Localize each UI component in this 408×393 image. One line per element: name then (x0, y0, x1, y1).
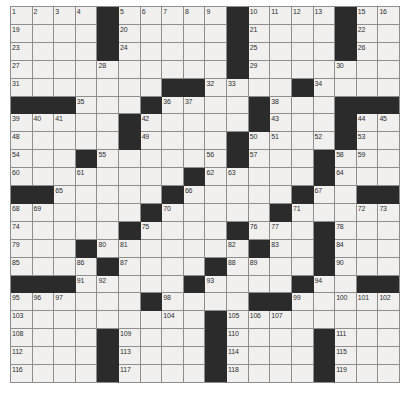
crossword-cell[interactable]: 54 (11, 150, 33, 168)
crossword-cell[interactable] (33, 150, 55, 168)
crossword-cell[interactable] (357, 79, 379, 97)
crossword-cell[interactable] (378, 43, 400, 61)
crossword-cell[interactable] (292, 43, 314, 61)
crossword-cell[interactable]: 67 (314, 186, 336, 204)
crossword-cell[interactable]: 29 (249, 61, 271, 79)
crossword-cell[interactable]: 23 (11, 43, 33, 61)
crossword-cell[interactable]: 70 (162, 204, 184, 222)
crossword-cell[interactable] (205, 132, 227, 150)
crossword-cell[interactable]: 83 (270, 240, 292, 258)
crossword-cell[interactable]: 77 (270, 222, 292, 240)
crossword-cell[interactable] (141, 276, 163, 294)
crossword-cell[interactable] (162, 258, 184, 276)
crossword-cell[interactable] (184, 293, 206, 311)
crossword-cell[interactable] (292, 365, 314, 383)
crossword-cell[interactable] (184, 222, 206, 240)
crossword-cell[interactable] (54, 43, 76, 61)
crossword-cell[interactable] (54, 25, 76, 43)
crossword-cell[interactable]: 68 (11, 204, 33, 222)
crossword-cell[interactable] (33, 222, 55, 240)
crossword-cell[interactable] (162, 61, 184, 79)
crossword-cell[interactable]: 85 (11, 258, 33, 276)
crossword-cell[interactable]: 80 (97, 240, 119, 258)
crossword-cell[interactable] (292, 329, 314, 347)
crossword-cell[interactable]: 8 (184, 7, 206, 25)
crossword-cell[interactable] (314, 204, 336, 222)
crossword-cell[interactable] (76, 222, 98, 240)
crossword-cell[interactable] (292, 311, 314, 329)
crossword-cell[interactable]: 1 (11, 7, 33, 25)
crossword-cell[interactable]: 75 (141, 222, 163, 240)
crossword-cell[interactable]: 101 (357, 293, 379, 311)
crossword-cell[interactable] (141, 347, 163, 365)
crossword-cell[interactable] (162, 222, 184, 240)
crossword-cell[interactable] (162, 240, 184, 258)
crossword-cell[interactable]: 64 (335, 168, 357, 186)
crossword-cell[interactable]: 33 (227, 79, 249, 97)
crossword-cell[interactable] (270, 25, 292, 43)
crossword-cell[interactable] (76, 329, 98, 347)
crossword-cell[interactable]: 28 (97, 61, 119, 79)
crossword-cell[interactable]: 102 (378, 293, 400, 311)
crossword-cell[interactable]: 107 (270, 311, 292, 329)
crossword-cell[interactable] (205, 204, 227, 222)
crossword-cell[interactable]: 44 (357, 114, 379, 132)
crossword-cell[interactable]: 93 (205, 276, 227, 294)
crossword-cell[interactable] (205, 97, 227, 115)
crossword-cell[interactable]: 81 (119, 240, 141, 258)
crossword-cell[interactable]: 58 (335, 150, 357, 168)
crossword-cell[interactable] (54, 222, 76, 240)
crossword-cell[interactable] (141, 43, 163, 61)
crossword-cell[interactable]: 3 (54, 7, 76, 25)
crossword-cell[interactable] (54, 204, 76, 222)
crossword-cell[interactable] (162, 114, 184, 132)
crossword-cell[interactable]: 21 (249, 25, 271, 43)
crossword-cell[interactable] (33, 79, 55, 97)
crossword-cell[interactable] (141, 258, 163, 276)
crossword-cell[interactable]: 24 (119, 43, 141, 61)
crossword-cell[interactable]: 39 (11, 114, 33, 132)
crossword-cell[interactable] (97, 114, 119, 132)
crossword-cell[interactable]: 88 (227, 258, 249, 276)
crossword-cell[interactable]: 119 (335, 365, 357, 383)
crossword-cell[interactable]: 100 (335, 293, 357, 311)
crossword-cell[interactable] (270, 258, 292, 276)
crossword-cell[interactable] (54, 329, 76, 347)
crossword-cell[interactable] (54, 150, 76, 168)
crossword-cell[interactable] (270, 168, 292, 186)
crossword-cell[interactable]: 22 (357, 25, 379, 43)
crossword-cell[interactable] (76, 25, 98, 43)
crossword-cell[interactable] (270, 347, 292, 365)
crossword-cell[interactable] (54, 347, 76, 365)
crossword-cell[interactable] (184, 43, 206, 61)
crossword-cell[interactable] (249, 276, 271, 294)
crossword-cell[interactable] (33, 329, 55, 347)
crossword-cell[interactable] (33, 365, 55, 383)
crossword-cell[interactable]: 99 (292, 293, 314, 311)
crossword-cell[interactable] (292, 168, 314, 186)
crossword-cell[interactable]: 108 (11, 329, 33, 347)
crossword-cell[interactable] (249, 329, 271, 347)
crossword-cell[interactable] (33, 258, 55, 276)
crossword-cell[interactable] (119, 293, 141, 311)
crossword-cell[interactable]: 117 (119, 365, 141, 383)
crossword-cell[interactable]: 53 (357, 132, 379, 150)
crossword-cell[interactable] (357, 61, 379, 79)
crossword-cell[interactable]: 104 (162, 311, 184, 329)
crossword-cell[interactable] (227, 204, 249, 222)
crossword-cell[interactable]: 11 (270, 7, 292, 25)
crossword-cell[interactable]: 98 (162, 293, 184, 311)
crossword-cell[interactable]: 65 (54, 186, 76, 204)
crossword-cell[interactable] (76, 79, 98, 97)
crossword-cell[interactable]: 105 (227, 311, 249, 329)
crossword-cell[interactable] (378, 311, 400, 329)
crossword-cell[interactable] (97, 293, 119, 311)
crossword-cell[interactable] (205, 114, 227, 132)
crossword-cell[interactable]: 12 (292, 7, 314, 25)
crossword-cell[interactable] (335, 79, 357, 97)
crossword-cell[interactable] (76, 186, 98, 204)
crossword-cell[interactable] (292, 114, 314, 132)
crossword-cell[interactable]: 31 (11, 79, 33, 97)
crossword-cell[interactable]: 110 (227, 329, 249, 347)
crossword-cell[interactable] (270, 276, 292, 294)
